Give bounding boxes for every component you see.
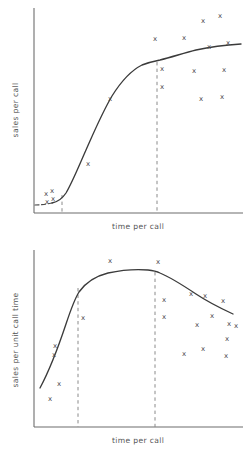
svg-text:x: x [201, 17, 205, 25]
svg-text:x: x [153, 35, 157, 43]
svg-text:x: x [44, 190, 48, 198]
svg-text:x: x [182, 34, 186, 42]
bottom-scatter-markers: x x x x x x x x x x x x x x x x x x x x [48, 257, 238, 403]
svg-text:x: x [226, 39, 230, 47]
two-panel-response-curve-figure: x x x x x x x x x x x x x x x x x x time… [0, 0, 249, 456]
svg-text:x: x [218, 12, 222, 20]
bottom-response-curve [40, 270, 233, 388]
svg-text:x: x [201, 345, 205, 353]
top-response-curve [52, 44, 241, 203]
svg-text:x: x [52, 351, 56, 359]
svg-text:x: x [195, 321, 199, 329]
svg-text:x: x [221, 297, 225, 305]
chart-sales-per-call: x x x x x x x x x x x x x x x x x x time… [0, 0, 249, 240]
top-scatter-markers: x x x x x x x x x x x x x x x x x x [44, 12, 230, 206]
svg-text:x: x [160, 65, 164, 73]
svg-text:x: x [108, 95, 112, 103]
top-curve-lead-in [35, 203, 52, 205]
svg-text:x: x [222, 66, 226, 74]
svg-text:x: x [234, 322, 238, 330]
svg-text:x: x [189, 290, 193, 298]
svg-text:x: x [53, 342, 57, 350]
svg-text:x: x [227, 320, 231, 328]
svg-text:x: x [224, 352, 228, 360]
svg-text:x: x [220, 93, 224, 101]
svg-text:x: x [48, 395, 52, 403]
bottom-y-axis-label: sales per unit call time [11, 293, 20, 388]
top-y-axis-label: sales per call [11, 83, 20, 138]
svg-text:x: x [210, 312, 214, 320]
svg-text:x: x [225, 335, 229, 343]
chart-bottom-canvas: x x x x x x x x x x x x x x x x x x x x [0, 228, 249, 456]
bottom-x-axis-label: time per call [112, 436, 164, 445]
svg-text:x: x [81, 314, 85, 322]
svg-text:x: x [50, 187, 54, 195]
svg-text:x: x [162, 313, 166, 321]
svg-text:x: x [160, 83, 164, 91]
svg-text:x: x [51, 195, 55, 203]
svg-text:x: x [199, 95, 203, 103]
chart-sales-per-unit-call-time: x x x x x x x x x x x x x x x x x x x x [0, 228, 249, 456]
svg-text:x: x [182, 350, 186, 358]
svg-text:x: x [156, 258, 160, 266]
svg-text:x: x [192, 67, 196, 75]
svg-text:x: x [203, 292, 207, 300]
svg-text:x: x [45, 198, 49, 206]
svg-text:x: x [207, 43, 211, 51]
chart-top-canvas: x x x x x x x x x x x x x x x x x x time… [0, 0, 249, 240]
svg-text:x: x [162, 296, 166, 304]
svg-text:x: x [86, 160, 90, 168]
svg-text:x: x [108, 257, 112, 265]
svg-text:x: x [57, 380, 61, 388]
